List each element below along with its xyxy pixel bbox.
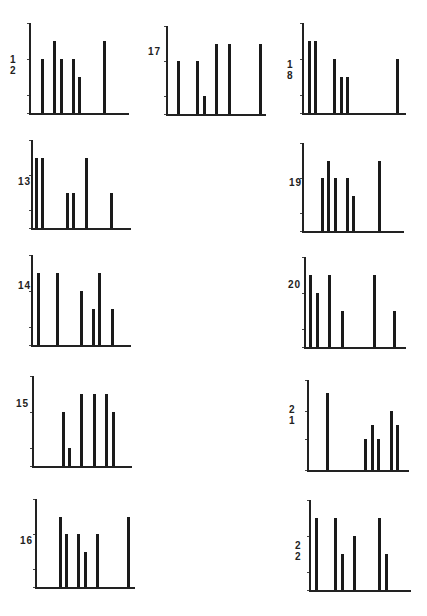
bar xyxy=(41,158,44,228)
bar xyxy=(341,311,344,347)
y-tick xyxy=(302,257,304,258)
y-tick xyxy=(305,470,307,471)
y-axis xyxy=(35,499,37,587)
y-axis xyxy=(307,380,309,470)
bar xyxy=(364,439,367,470)
y-tick xyxy=(164,26,166,27)
y-tick xyxy=(307,572,309,573)
bar xyxy=(112,412,115,466)
bar xyxy=(321,178,324,231)
y-tick xyxy=(29,228,31,229)
bar xyxy=(371,425,374,470)
x-axis xyxy=(166,114,266,116)
bar xyxy=(111,309,114,345)
bar xyxy=(308,41,311,113)
bar xyxy=(396,425,399,470)
bar xyxy=(53,41,56,113)
bar xyxy=(80,394,83,466)
y-tick xyxy=(302,347,304,348)
chart-label: 16 xyxy=(20,535,33,546)
chart-label: 1 8 xyxy=(287,59,294,81)
y-tick xyxy=(300,113,302,114)
bar xyxy=(60,59,63,113)
bar xyxy=(326,393,329,470)
bar xyxy=(215,44,218,114)
y-tick xyxy=(27,23,29,24)
bar xyxy=(92,309,95,345)
bar xyxy=(59,517,62,587)
bar xyxy=(66,193,69,228)
bar xyxy=(41,59,44,113)
bar xyxy=(378,518,381,590)
y-tick xyxy=(164,61,166,62)
y-axis xyxy=(31,140,33,228)
bar xyxy=(316,293,319,347)
y-tick xyxy=(30,448,32,449)
bar xyxy=(68,448,71,466)
bar xyxy=(385,554,388,590)
bar xyxy=(334,178,337,231)
bar xyxy=(98,273,101,345)
y-tick xyxy=(33,587,35,588)
y-axis xyxy=(32,376,34,466)
y-tick xyxy=(307,500,309,501)
bar xyxy=(177,61,180,114)
x-axis xyxy=(307,470,409,472)
y-tick xyxy=(300,231,302,232)
y-tick xyxy=(164,114,166,115)
bar xyxy=(377,439,380,470)
bar xyxy=(373,275,376,347)
y-tick xyxy=(27,113,29,114)
y-tick xyxy=(30,376,32,377)
y-axis xyxy=(309,500,311,590)
y-tick xyxy=(33,499,35,500)
bar xyxy=(127,517,130,587)
bar xyxy=(196,61,199,114)
y-tick xyxy=(27,95,29,96)
x-axis xyxy=(304,347,406,349)
y-tick xyxy=(27,59,29,60)
bar xyxy=(378,161,381,231)
chart-label: 2 1 xyxy=(289,404,296,426)
bar xyxy=(346,77,349,113)
bar xyxy=(259,44,262,114)
bar xyxy=(65,534,68,587)
bar xyxy=(77,534,80,587)
y-tick xyxy=(30,466,32,467)
bar xyxy=(85,158,88,228)
y-axis xyxy=(29,23,31,113)
bar xyxy=(110,193,113,228)
y-tick xyxy=(300,23,302,24)
x-axis xyxy=(31,228,131,230)
bar xyxy=(78,77,81,113)
bar xyxy=(37,273,40,345)
x-axis xyxy=(35,587,135,589)
y-tick xyxy=(305,380,307,381)
x-axis xyxy=(302,231,404,233)
bar xyxy=(390,411,393,470)
chart-label: 1 2 xyxy=(10,54,17,76)
bar xyxy=(334,518,337,590)
chart-label: 19 xyxy=(289,177,302,188)
x-axis xyxy=(302,113,406,115)
y-axis xyxy=(31,255,33,345)
bar xyxy=(105,394,108,466)
chart-label: 15 xyxy=(16,398,29,409)
y-tick xyxy=(29,345,31,346)
y-tick xyxy=(305,439,307,440)
bar xyxy=(93,394,96,466)
bar xyxy=(72,193,75,228)
bar xyxy=(314,41,317,113)
x-axis xyxy=(29,113,129,115)
y-tick xyxy=(300,143,302,144)
y-tick xyxy=(300,59,302,60)
chart-label: 20 xyxy=(288,279,301,290)
y-tick xyxy=(29,255,31,256)
y-tick xyxy=(29,327,31,328)
x-axis xyxy=(32,466,132,468)
y-tick xyxy=(33,569,35,570)
bar xyxy=(333,59,336,113)
x-axis xyxy=(31,345,131,347)
y-axis xyxy=(302,23,304,113)
chart-label: 17 xyxy=(148,46,161,57)
